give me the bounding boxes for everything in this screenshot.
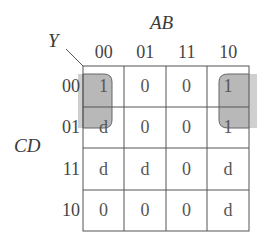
col-var-label: AB <box>150 12 173 34</box>
row-header-01: 01 <box>52 117 80 138</box>
kmap-cell: d <box>83 107 124 148</box>
kmap-cell: 0 <box>125 190 166 231</box>
kmap-cell: 1 <box>83 66 124 107</box>
col-header-00: 00 <box>83 42 125 63</box>
kmap-cell: d <box>208 190 249 231</box>
output-label: Y <box>48 30 59 52</box>
kmap-cell: 0 <box>166 190 207 231</box>
col-header-10: 10 <box>208 42 250 63</box>
row-header-00: 00 <box>52 76 80 97</box>
kmap-cell: 0 <box>166 149 207 190</box>
kmap-cell: 0 <box>166 107 207 148</box>
row-header-11: 11 <box>52 159 80 180</box>
kmap-cell: 0 <box>125 107 166 148</box>
kmap-cell: 0 <box>83 190 124 231</box>
group-right-shade <box>249 74 257 128</box>
row-header-10: 10 <box>52 200 80 221</box>
col-header-11: 11 <box>166 42 208 63</box>
col-header-01: 01 <box>125 42 167 63</box>
row-var-label: CD <box>14 135 40 157</box>
kmap-cell: d <box>83 149 124 190</box>
kmap-cell: d <box>125 149 166 190</box>
corner-diagonal <box>66 49 83 66</box>
kmap-cell: 1 <box>208 107 249 148</box>
kmap-cell: 1 <box>208 66 249 107</box>
kmap-cell: 0 <box>166 66 207 107</box>
kmap-cell: 0 <box>125 66 166 107</box>
kmap-cell: d <box>208 149 249 190</box>
